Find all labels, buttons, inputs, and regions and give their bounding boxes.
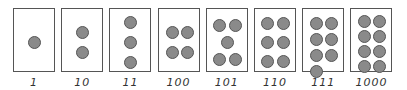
dot-icon	[277, 17, 290, 30]
dot-icon	[358, 45, 371, 58]
dot-icon	[277, 36, 290, 49]
card-label: 110	[250, 76, 300, 89]
card-label: 11	[105, 76, 155, 89]
card-label: 100	[154, 76, 204, 89]
dot-icon	[373, 60, 386, 73]
dot-icon	[358, 15, 371, 28]
dot-icon	[166, 46, 179, 59]
dot-icon	[325, 33, 338, 46]
dot-icon	[124, 16, 137, 29]
dot-icon	[358, 60, 371, 73]
dot-icon	[124, 36, 137, 49]
dot-icon	[261, 17, 274, 30]
dot-icon	[28, 36, 41, 49]
dot-card	[350, 8, 392, 72]
dot-icon	[310, 33, 323, 46]
dot-icon	[181, 46, 194, 59]
card-label: 101	[202, 76, 252, 89]
dot-icon	[213, 53, 226, 66]
dot-icon	[124, 56, 137, 69]
card-label: 1000	[346, 76, 396, 89]
dot-icon	[358, 30, 371, 43]
dot-icon	[213, 19, 226, 32]
dot-icon	[76, 46, 89, 59]
dot-icon	[181, 26, 194, 39]
dot-card	[158, 8, 200, 72]
card-label: 1	[9, 76, 59, 89]
dot-card	[61, 8, 103, 72]
dot-card	[109, 8, 151, 72]
dot-card	[206, 8, 248, 72]
dot-icon	[373, 45, 386, 58]
dot-icon	[229, 53, 242, 66]
card-label: 111	[298, 76, 348, 89]
dot-icon	[76, 26, 89, 39]
dot-icon	[373, 15, 386, 28]
dot-icon	[310, 17, 323, 30]
dot-icon	[229, 19, 242, 32]
dot-icon	[373, 30, 386, 43]
dot-icon	[221, 36, 234, 49]
dot-card	[13, 8, 55, 72]
dot-icon	[325, 17, 338, 30]
dot-icon	[261, 36, 274, 49]
dot-icon	[310, 49, 323, 62]
dot-icon	[166, 26, 179, 39]
dot-icon	[261, 55, 274, 68]
dot-icon	[325, 49, 338, 62]
dot-icon	[277, 55, 290, 68]
dot-card	[254, 8, 296, 72]
card-label: 10	[57, 76, 107, 89]
dot-card	[302, 8, 344, 72]
